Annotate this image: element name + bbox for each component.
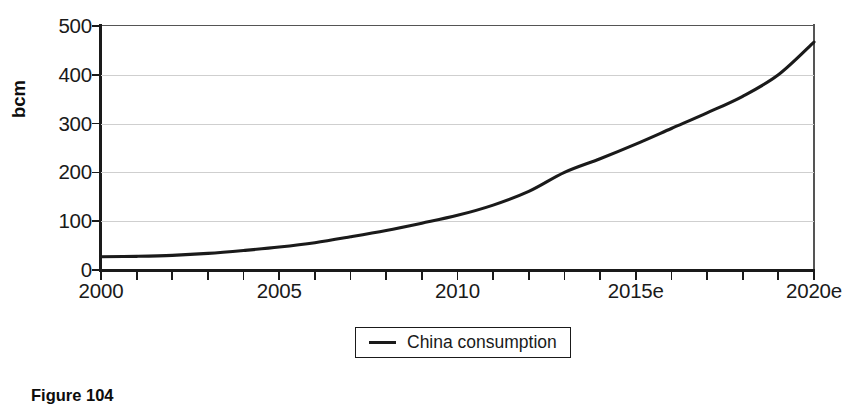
legend-line-swatch [369, 341, 396, 344]
x-tick-2019 [777, 271, 779, 280]
y-tick-label-500: 500 [58, 16, 92, 37]
x-tick-2014 [599, 271, 601, 280]
x-tick-2001 [136, 271, 138, 280]
y-tick-400 [92, 74, 101, 76]
x-tick-2012 [528, 271, 530, 280]
x-tick-2007 [350, 271, 352, 280]
gridline-y-300 [101, 124, 814, 125]
plot-area [101, 26, 814, 270]
y-tick-label-400: 400 [58, 65, 92, 86]
x-tick-label-2015e: 2015e [608, 281, 664, 302]
y-tick-label-200: 200 [58, 162, 92, 183]
x-tick-2018 [742, 271, 744, 280]
x-tick-2004 [243, 271, 245, 280]
y-tick-label-0: 0 [81, 260, 92, 281]
x-tick-label-2020e: 2020e [786, 281, 842, 302]
x-tick-2002 [171, 271, 173, 280]
y-axis-tick-labels: 0100200300400500 [0, 0, 92, 412]
gridline-y-400 [101, 75, 814, 76]
x-tick-2009 [421, 271, 423, 280]
y-tick-200 [92, 172, 101, 174]
x-tick-2013 [564, 271, 566, 280]
legend-entry-label: China consumption [407, 332, 557, 353]
y-tick-500 [92, 25, 101, 27]
y-tick-label-300: 300 [58, 114, 92, 135]
x-tick-label-2010: 2010 [435, 281, 480, 302]
y-tick-300 [92, 123, 101, 125]
gridline-y-200 [101, 172, 814, 173]
x-tick-2016 [671, 271, 673, 280]
x-tick-2006 [314, 271, 316, 280]
x-tick-label-2000: 2000 [79, 281, 124, 302]
x-tick-label-2005: 2005 [257, 281, 302, 302]
x-tick-2008 [385, 271, 387, 280]
x-tick-2017 [706, 271, 708, 280]
x-tick-2011 [492, 271, 494, 280]
chart-legend: China consumption [355, 327, 571, 358]
gridline-y-100 [101, 221, 814, 222]
x-tick-2003 [207, 271, 209, 280]
y-tick-label-100: 100 [58, 211, 92, 232]
y-tick-100 [92, 220, 101, 222]
figure-caption: Figure 104 [31, 386, 114, 405]
